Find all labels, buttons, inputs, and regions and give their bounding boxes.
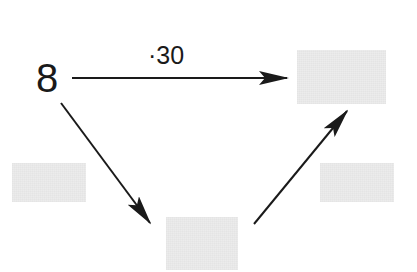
answer-box-top-right[interactable] — [297, 50, 386, 104]
answer-box-right[interactable] — [320, 163, 394, 202]
operation-label: ·30 — [148, 40, 184, 70]
answer-box-bottom[interactable] — [166, 217, 238, 270]
answer-box-left[interactable] — [12, 163, 86, 202]
arrow-diagram: 8 ·30 — [0, 0, 417, 272]
start-value: 8 — [36, 56, 58, 100]
